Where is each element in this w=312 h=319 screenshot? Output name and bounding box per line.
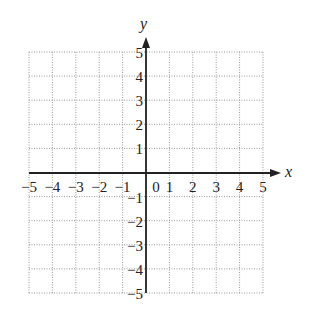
y-tick-label: −2 xyxy=(127,214,143,230)
y-tick-label: 2 xyxy=(136,117,144,133)
y-tick-label: −1 xyxy=(127,190,143,206)
y-tick-label: −3 xyxy=(127,238,143,254)
axes: x y xyxy=(29,15,292,293)
y-tick-label: −5 xyxy=(127,286,143,302)
x-tick-label: 1 xyxy=(166,179,174,195)
x-axis-arrow-icon xyxy=(270,169,281,177)
x-axis-label: x xyxy=(284,163,292,180)
y-axis-label: y xyxy=(138,15,148,33)
x-tick-label: −2 xyxy=(91,179,107,195)
y-tick-label: −4 xyxy=(127,262,143,278)
x-tick-label: −4 xyxy=(44,179,60,195)
coordinate-plane: x y −5−4−3−2−1012345 54321−1−2−3−4−5 xyxy=(0,0,312,319)
y-tick-label: 1 xyxy=(136,141,144,157)
y-tick-label: 3 xyxy=(136,93,144,109)
y-tick-label: 5 xyxy=(136,45,144,61)
x-tick-label: 0 xyxy=(152,179,160,195)
x-tick-label: 4 xyxy=(236,179,244,195)
x-tick-label: 3 xyxy=(212,179,220,195)
x-tick-labels: −5−4−3−2−1012345 xyxy=(21,179,267,195)
x-tick-label: −5 xyxy=(21,179,37,195)
y-tick-label: 4 xyxy=(136,69,144,85)
x-tick-label: 5 xyxy=(259,179,267,195)
x-tick-label: 2 xyxy=(189,179,197,195)
y-axis-arrow-icon xyxy=(142,37,150,48)
x-tick-label: −3 xyxy=(68,179,84,195)
